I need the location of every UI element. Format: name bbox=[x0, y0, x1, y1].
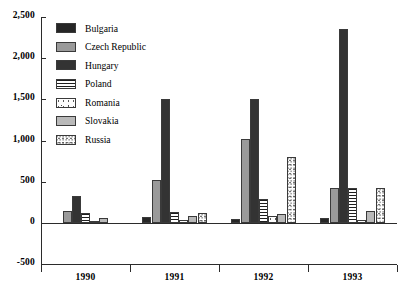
x-axis-origin-tick bbox=[41, 265, 42, 272]
x-axis-tick-mark bbox=[397, 265, 398, 272]
bar-romania-1992 bbox=[268, 216, 277, 223]
y-axis-tick-label: 2,000 bbox=[13, 51, 35, 61]
bar-chart: -50005001,0001,5002,0002,500 19901991199… bbox=[0, 0, 410, 300]
legend-item-hungary[interactable]: Hungary bbox=[56, 56, 146, 75]
bar-czech-republic-1993 bbox=[330, 188, 339, 223]
bar-hungary-1990 bbox=[72, 196, 81, 223]
zero-baseline bbox=[41, 223, 397, 224]
y-axis-tick-label: 500 bbox=[20, 175, 35, 185]
legend-item-romania[interactable]: Romania bbox=[56, 93, 146, 112]
legend-swatch-icon bbox=[56, 42, 76, 52]
x-axis-tick-label-1993: 1993 bbox=[308, 272, 397, 282]
x-axis-tick-label-1992: 1992 bbox=[219, 272, 308, 282]
x-axis-tick-mark bbox=[130, 265, 131, 272]
legend-item-czech-republic[interactable]: Czech Republic bbox=[56, 38, 146, 57]
bar-slovakia-1993 bbox=[366, 211, 375, 223]
legend-item-russia[interactable]: Russia bbox=[56, 131, 146, 150]
bar-slovakia-1992 bbox=[277, 214, 286, 223]
bar-czech-republic-1991 bbox=[152, 180, 161, 223]
bar-poland-1991 bbox=[170, 212, 179, 223]
bar-slovakia-1991 bbox=[188, 216, 197, 223]
bar-poland-1993 bbox=[348, 188, 357, 223]
bar-russia-1992 bbox=[287, 157, 296, 223]
legend-swatch-icon bbox=[56, 60, 76, 70]
y-axis-tick-label: -500 bbox=[17, 257, 35, 267]
legend-item-poland[interactable]: Poland bbox=[56, 75, 146, 94]
y-axis-tick-label: 1,000 bbox=[13, 134, 35, 144]
bar-czech-republic-1990 bbox=[63, 211, 72, 223]
legend-item-label: Russia bbox=[85, 135, 111, 145]
x-axis-tick-label-1991: 1991 bbox=[130, 272, 219, 282]
bar-russia-1993 bbox=[376, 188, 385, 223]
legend-item-slovakia[interactable]: Slovakia bbox=[56, 112, 146, 131]
legend-swatch-icon bbox=[56, 79, 76, 89]
bar-russia-1991 bbox=[198, 213, 207, 223]
bar-poland-1990 bbox=[81, 213, 90, 223]
bar-hungary-1991 bbox=[161, 99, 170, 223]
legend-item-bulgaria[interactable]: Bulgaria bbox=[56, 19, 146, 38]
legend-swatch-icon bbox=[56, 116, 76, 126]
y-axis-tick-label: 0 bbox=[30, 216, 35, 226]
x-axis-tick-mark bbox=[308, 265, 309, 272]
y-axis-tick-label: 2,500 bbox=[13, 10, 35, 20]
legend-swatch-icon bbox=[56, 135, 76, 145]
legend-item-label: Hungary bbox=[85, 61, 119, 71]
chart-legend: BulgariaCzech RepublicHungaryPolandRoman… bbox=[56, 19, 146, 149]
x-axis-tick-mark bbox=[219, 265, 220, 272]
legend-item-label: Romania bbox=[85, 98, 120, 108]
legend-item-label: Slovakia bbox=[85, 116, 119, 126]
legend-swatch-icon bbox=[56, 98, 76, 108]
legend-item-label: Bulgaria bbox=[85, 24, 118, 34]
bar-poland-1992 bbox=[259, 199, 268, 223]
bar-hungary-1993 bbox=[339, 29, 348, 223]
x-axis-tick-label-1990: 1990 bbox=[41, 272, 130, 282]
y-axis-tick-label: 1,500 bbox=[13, 92, 35, 102]
legend-item-label: Czech Republic bbox=[85, 42, 146, 52]
legend-swatch-icon bbox=[56, 23, 76, 33]
bar-czech-republic-1992 bbox=[241, 139, 250, 223]
bar-hungary-1992 bbox=[250, 99, 259, 223]
legend-item-label: Poland bbox=[85, 79, 112, 89]
